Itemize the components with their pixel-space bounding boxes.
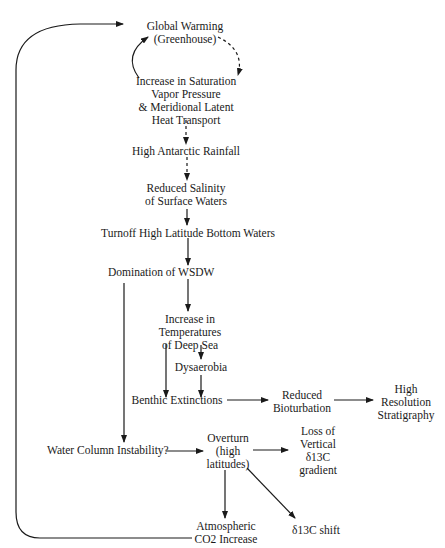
node-line: Atmospheric (190, 520, 262, 533)
node-instability: Water Column Instability? (47, 444, 165, 457)
node-line: Turnoff High Latitude Bottom Waters (98, 227, 278, 240)
node-co2: Atmospheric CO2 Increase (190, 520, 262, 546)
node-line: Water Column Instability? (47, 444, 165, 457)
node-line: Heat Transport (136, 114, 236, 127)
node-d13c-shift: δ13C shift (284, 524, 348, 537)
node-line: Domination of WSDW (108, 266, 218, 279)
node-line: Benthic Extinctions (128, 394, 226, 407)
edge-overturn-to-d13c (247, 468, 295, 518)
node-line: Reduced (270, 389, 334, 402)
node-line: Increase in (152, 313, 228, 326)
node-line: of Surface Waters (136, 195, 236, 208)
node-loss-gradient: Loss of Vertical δ13C gradient (290, 425, 346, 477)
node-line: & Meridional Latent (136, 101, 236, 114)
node-line: Loss of (290, 425, 346, 438)
node-line: Reduced Salinity (136, 182, 236, 195)
node-benthic: Benthic Extinctions (128, 394, 226, 407)
node-wsdw: Domination of WSDW (108, 266, 218, 279)
node-line: Vapor Pressure (136, 88, 236, 101)
node-line: δ13C (290, 451, 346, 464)
node-saturation: Increase in Saturation Vapor Pressure & … (136, 75, 236, 127)
node-line: Temperatures (152, 326, 228, 339)
node-overturn: Overturn (high latitudes) (203, 432, 253, 471)
node-line: Bioturbation (270, 402, 334, 415)
node-line: Dysaerobia (171, 361, 231, 374)
node-line: High (374, 383, 438, 396)
node-line: CO2 Increase (190, 533, 262, 546)
node-stratigraphy: High Resolution Stratigraphy (374, 383, 438, 422)
node-line: (high (203, 445, 253, 458)
node-line: latitudes) (203, 458, 253, 471)
node-line: Increase in Saturation (136, 75, 236, 88)
node-line: Resolution (374, 396, 438, 409)
node-line: of Deep Sea (152, 339, 228, 352)
node-salinity: Reduced Salinity of Surface Waters (136, 182, 236, 208)
node-line: gradient (290, 464, 346, 477)
node-turnoff: Turnoff High Latitude Bottom Waters (98, 227, 278, 240)
node-line: High Antarctic Rainfall (126, 145, 246, 158)
node-line: (Greenhouse) (145, 33, 225, 46)
node-line: Vertical (290, 438, 346, 451)
node-global-warming: Global Warming (Greenhouse) (145, 20, 225, 46)
node-rainfall: High Antarctic Rainfall (126, 145, 246, 158)
node-dysaerobia: Dysaerobia (171, 361, 231, 374)
node-line: δ13C shift (284, 524, 348, 537)
node-deep-sea-temp: Increase in Temperatures of Deep Sea (152, 313, 228, 352)
node-line: Overturn (203, 432, 253, 445)
node-line: Global Warming (145, 20, 225, 33)
node-line: Stratigraphy (374, 409, 438, 422)
node-bioturbation: Reduced Bioturbation (270, 389, 334, 415)
